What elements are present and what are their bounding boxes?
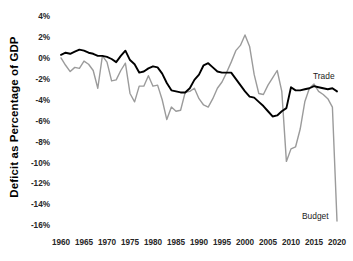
series-label-trade: Trade (313, 71, 335, 81)
series-label-budget: Budget (302, 211, 329, 221)
x-tick-label: 2020 (322, 238, 352, 247)
chart-plot-area (0, 0, 353, 261)
x-axis-tick-labels: 1960196519701975198019851990199520002005… (0, 238, 353, 252)
data-line-budget (61, 35, 337, 221)
chart-container: Deficit as Percentage of GDP 4%2%0%-2%-4… (0, 0, 353, 261)
